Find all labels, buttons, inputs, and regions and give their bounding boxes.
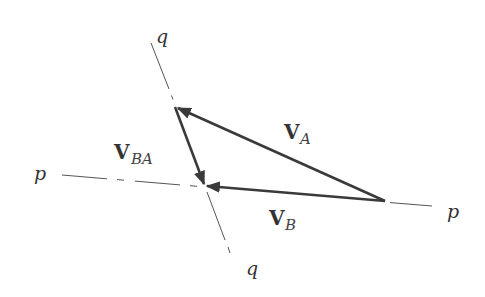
q-label-top: q (156, 25, 168, 47)
label-vba: V BA (113, 140, 153, 168)
label-va: V A (283, 120, 311, 148)
p-label-left: p (34, 162, 46, 184)
svg-text:BA: BA (130, 150, 153, 168)
relative-velocity-diagram: q p p q V A V BA V B (0, 0, 485, 297)
svg-text:V: V (113, 140, 130, 164)
svg-text:V: V (268, 206, 285, 230)
q-label-bottom: q (246, 257, 258, 279)
p-label-right: p (447, 200, 459, 222)
label-vb: V B (268, 206, 296, 234)
svg-text:A: A (298, 130, 311, 148)
svg-text:V: V (283, 120, 300, 144)
svg-text:B: B (284, 216, 296, 234)
